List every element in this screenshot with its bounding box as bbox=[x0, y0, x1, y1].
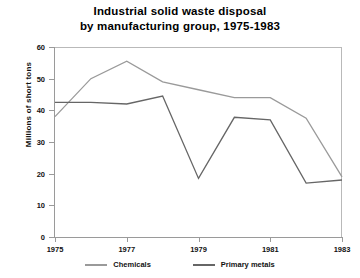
legend-label: Primary metals bbox=[221, 260, 275, 269]
series-line-chemicals bbox=[55, 61, 342, 177]
legend-item-chemicals[interactable]: Chemicals bbox=[85, 260, 151, 269]
series-line-primary-metals bbox=[55, 96, 342, 183]
legend-swatch-icon bbox=[85, 264, 107, 266]
chart-container: Industrial solid waste disposal by manuf… bbox=[0, 0, 360, 278]
legend-item-primary-metals[interactable]: Primary metals bbox=[193, 260, 275, 269]
chart-legend: ChemicalsPrimary metals bbox=[0, 260, 360, 269]
legend-swatch-icon bbox=[193, 264, 215, 266]
legend-label: Chemicals bbox=[113, 260, 151, 269]
series-layer bbox=[0, 0, 360, 278]
